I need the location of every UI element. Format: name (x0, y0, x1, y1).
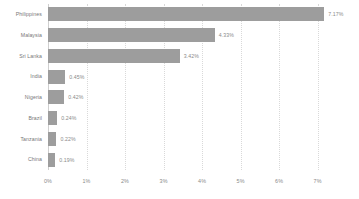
bar-row[interactable]: 0.45% (48, 70, 333, 84)
category-label: Sri Lanka (19, 53, 42, 59)
category-label: Philippines (16, 11, 42, 17)
x-axis: 0%1%2%3%4%5%6%7% (48, 174, 333, 188)
category-label: India (30, 73, 42, 79)
bar-value-label: 0.45% (69, 74, 84, 80)
category-label: Tanzania (20, 136, 42, 142)
x-tick-label: 0% (44, 178, 52, 184)
x-tick-label: 1% (83, 178, 91, 184)
category-axis: PhilippinesMalaysiaSri LankaIndiaNigeria… (0, 4, 45, 170)
bar-row[interactable]: 0.22% (48, 132, 333, 146)
x-tick-label: 6% (275, 178, 283, 184)
bar-value-label: 7.17% (328, 11, 343, 17)
x-tick-label: 4% (198, 178, 206, 184)
x-tick-label: 2% (121, 178, 129, 184)
bar[interactable] (48, 70, 65, 84)
bar[interactable] (48, 49, 180, 63)
bar-row[interactable]: 0.24% (48, 111, 333, 125)
bar-row[interactable]: 4.33% (48, 28, 333, 42)
category-label: Nigeria (25, 94, 42, 100)
bar[interactable] (48, 132, 56, 146)
plot-area: 7.17%4.33%3.42%0.45%0.42%0.24%0.22%0.19% (48, 4, 333, 170)
x-tick-label: 5% (237, 178, 245, 184)
bar[interactable] (48, 90, 64, 104)
category-label: China (28, 156, 42, 162)
bar-value-label: 0.22% (60, 136, 75, 142)
bar-chart: PhilippinesMalaysiaSri LankaIndiaNigeria… (0, 0, 359, 199)
category-label: Malaysia (21, 32, 42, 38)
x-tick-label: 7% (314, 178, 322, 184)
bar-row[interactable]: 0.19% (48, 153, 333, 167)
bar[interactable] (48, 7, 324, 21)
bar-value-label: 0.42% (68, 94, 83, 100)
bar-row[interactable]: 7.17% (48, 7, 333, 21)
bar[interactable] (48, 111, 57, 125)
bar[interactable] (48, 28, 215, 42)
bar-value-label: 0.24% (61, 115, 76, 121)
bar-row[interactable]: 3.42% (48, 49, 333, 63)
bar-series: 7.17%4.33%3.42%0.45%0.42%0.24%0.22%0.19% (48, 4, 333, 170)
bar-value-label: 0.19% (59, 157, 74, 163)
bar-value-label: 3.42% (184, 53, 199, 59)
bar-value-label: 4.33% (219, 32, 234, 38)
category-label: Brazil (28, 115, 42, 121)
bar[interactable] (48, 153, 55, 167)
bar-row[interactable]: 0.42% (48, 90, 333, 104)
x-tick-label: 3% (160, 178, 168, 184)
